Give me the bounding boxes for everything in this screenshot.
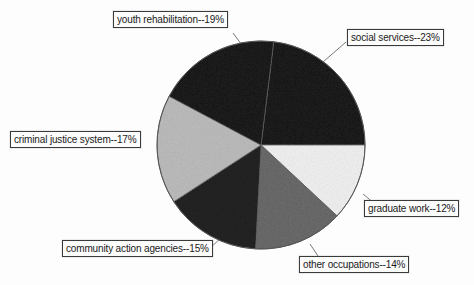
label-other-occupations[interactable]: other occupations--14% <box>299 256 409 273</box>
label-community-action-agencies[interactable]: community action agencies--15% <box>62 240 213 257</box>
label-social-services[interactable]: social services--23% <box>347 29 444 46</box>
label-text-other-occupations: other occupations--14% <box>303 259 405 270</box>
label-criminal-justice-system[interactable]: criminal justice system--17% <box>10 131 141 148</box>
label-text-social-services: social services--23% <box>351 32 440 43</box>
label-text-community-action-agencies: community action agencies--15% <box>66 243 209 254</box>
label-text-graduate-work: graduate work--12% <box>368 203 455 214</box>
label-text-criminal-justice-system: criminal justice system--17% <box>14 134 137 145</box>
pie-slices-group <box>157 41 365 249</box>
label-youth-rehabilitation[interactable]: youth rehabilitation--19% <box>113 11 228 28</box>
label-text-youth-rehabilitation: youth rehabilitation--19% <box>117 14 224 25</box>
pie-slice-social-services[interactable] <box>261 42 365 145</box>
pie-chart: youth rehabilitation--19% social service… <box>0 0 474 285</box>
leader-line-social-services <box>323 42 346 62</box>
label-graduate-work[interactable]: graduate work--12% <box>364 200 459 217</box>
